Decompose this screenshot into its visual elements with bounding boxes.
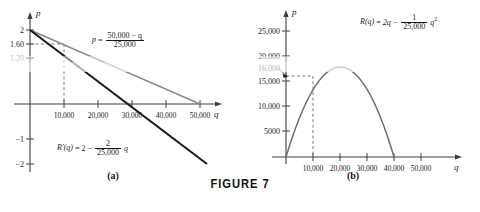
y-tick-label-b-3: 10,000 (258, 102, 280, 111)
y-tick-label-b-annot: 16,000 (258, 64, 280, 73)
x-axis-label-b: q (454, 162, 459, 172)
marginal-numerator: 2 (95, 140, 121, 148)
x-tick-label-a-0: 10,000 (54, 111, 75, 120)
x-tick-label-b-4: 50,000 (411, 164, 432, 173)
x-tick-label-a-1: 20,000 (88, 111, 109, 120)
y-axis-arrow-b (283, 10, 288, 17)
figure-7: p q 2 1.60 1.20 −1 −2 10,000 20,000 30,0… (0, 0, 480, 212)
y-tick-label-a-0: 2 (20, 26, 24, 35)
x-tick-label-a-2: 30,000 (122, 111, 143, 120)
y-tick-label-b-0: 25,000 (258, 27, 280, 36)
x-tick-label-a-3: 40,000 (156, 111, 177, 120)
x-tick-label-b-3: 40,000 (384, 164, 405, 173)
marginal-fraction: 2 25,000 (95, 140, 121, 157)
revenue-fraction: 1 25,000 (401, 14, 427, 31)
marginal-lead: 2 − (81, 145, 92, 153)
demand-denominator: 25,000 (106, 40, 145, 49)
x-axis-label-a: q (214, 109, 219, 119)
y-axis-label-a: p (35, 8, 41, 18)
demand-lhs: p (92, 35, 96, 44)
demand-numerator: 50,000 − q (106, 32, 145, 40)
y-axis-arrow-a (27, 12, 32, 19)
demand-equals: = (98, 37, 103, 45)
y-tick-label-a-3: −1 (15, 135, 24, 144)
revenue-parabola (286, 67, 394, 157)
revenue-numerator: 1 (401, 14, 427, 22)
panel-a-marginal-revenue-chart: p q 2 1.60 1.20 −1 −2 10,000 20,000 30,0… (0, 0, 240, 190)
demand-equation: p = 50,000 − q 25,000 (92, 32, 145, 49)
y-tick-label-b-4: 5000 (264, 127, 280, 136)
y-axis-label-b: p (291, 7, 297, 17)
y-tick-label-b-2: 15,000 (258, 77, 280, 86)
panel-a-svg: p q 2 1.60 1.20 −1 −2 10,000 20,000 30,0… (0, 0, 240, 190)
revenue-denominator: 25,000 (401, 22, 427, 31)
x-tick-label-b-0: 10,000 (303, 164, 324, 173)
marginal-equals: = (75, 145, 80, 153)
figure-caption: FIGURE 7 (34, 176, 447, 191)
marginal-revenue-equation: R′(q) = 2 − 2 25,000 q (57, 140, 128, 157)
demand-fraction: 50,000 − q 25,000 (106, 32, 145, 49)
y-tick-label-a-2: 1.20 (10, 54, 24, 63)
x-axis-arrow-a (215, 101, 222, 106)
revenue-equation: R(q) = 2q − 1 25,000 q2 (360, 14, 437, 31)
x-tick-label-a-4: 50,000 (190, 111, 211, 120)
revenue-equals: = (376, 19, 381, 27)
y-tick-label-a-1: 1.60 (10, 40, 24, 49)
y-tick-label-a-4: −2 (15, 160, 24, 169)
revenue-lhs: R(q) (360, 17, 374, 26)
marginal-denominator: 25,000 (95, 148, 121, 157)
marginal-lhs: R′(q) (57, 143, 73, 152)
marginal-trail: q (124, 145, 128, 153)
revenue-lead: 2q − (383, 19, 398, 27)
y-tick-label-b-1: 20,000 (258, 52, 280, 61)
revenue-exponent: 2 (434, 16, 437, 22)
x-axis-arrow-b (455, 154, 462, 159)
